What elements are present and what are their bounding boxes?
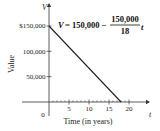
y-tick-label: $150,000 [19, 22, 46, 30]
x-axis-arrow [146, 100, 150, 104]
x-tick-label: 5 [67, 105, 71, 113]
x-axis-variable: t [149, 110, 152, 119]
x-tick-label: 10 [86, 105, 94, 113]
x-axis-title: Time (in years) [63, 117, 112, 126]
series [49, 26, 121, 102]
origin-label: 0 [41, 111, 45, 119]
ticks: 510152050,000100,000$150,000 [19, 22, 133, 113]
x-tick-label: 20 [126, 105, 134, 113]
equation-constant: = 150,000 − [65, 20, 107, 30]
equation-annotation: V = 150,000 − 150,000 18 t [58, 14, 144, 36]
chart: 510152050,000100,000$150,000 V t Time (i… [0, 0, 160, 131]
y-tick-label: 50,000 [26, 73, 46, 81]
y-axis-title: Value [7, 54, 16, 73]
equation-numerator: 150,000 [111, 14, 139, 24]
depreciation-line [49, 26, 121, 102]
y-axis-arrow [47, 3, 51, 7]
equation-variable: t [141, 22, 144, 32]
equation-lhs: V [58, 20, 65, 30]
equation-denominator: 18 [121, 26, 130, 36]
y-axis-variable: V [42, 3, 48, 12]
y-tick-label: 100,000 [23, 48, 46, 56]
x-tick-label: 15 [106, 105, 114, 113]
